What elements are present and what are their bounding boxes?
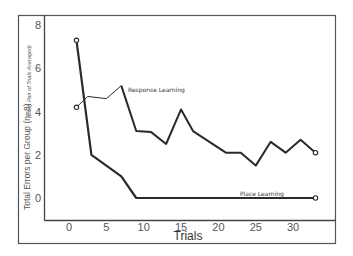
x-tick-label: 0 — [66, 221, 72, 233]
x-tick-label: 5 — [103, 221, 109, 233]
x-axis-label: Trials — [174, 229, 203, 243]
y-tick-label: 0 — [35, 192, 41, 204]
endpoint-marker — [313, 150, 317, 154]
place-learning-label: Place Learning — [240, 190, 284, 198]
y-tick-label: 6 — [35, 62, 41, 74]
series-group — [74, 38, 317, 200]
response-learning-line — [121, 86, 315, 166]
y-tick-label: 8 — [35, 19, 41, 31]
endpoint-marker — [313, 196, 317, 200]
x-tick-label: 30 — [287, 221, 299, 233]
outer-frame — [19, 16, 336, 244]
y-tick-label: 2 — [35, 149, 41, 161]
y-axis-secondary-label: (Each Pair of Trials Averaged) — [26, 45, 32, 118]
endpoint-marker — [74, 105, 78, 109]
chart-figure: 02468 051015202530 Trials Total Errors p… — [0, 0, 353, 256]
y-tick-labels: 02468 — [35, 19, 41, 204]
y-axis-label: Total Errors per Group (n=8) — [22, 103, 32, 210]
x-tick-label: 25 — [250, 221, 262, 233]
y-tick-label: 4 — [35, 106, 41, 118]
x-tick-label: 20 — [212, 221, 224, 233]
x-tick-label: 10 — [138, 221, 150, 233]
response-learning-label: Response Learning — [128, 86, 185, 94]
endpoint-marker — [74, 38, 78, 42]
place-learning-line — [76, 40, 315, 198]
